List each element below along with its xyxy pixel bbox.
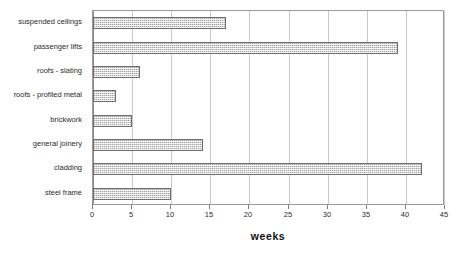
bar[interactable] [93,42,398,54]
bar-row [93,133,443,157]
x-tick-label: 5 [119,210,143,220]
category-label: steel frame [0,188,82,198]
category-label: passenger lifts [0,42,82,52]
bar-row [93,157,443,181]
x-tick-mark [131,205,132,209]
x-tick-mark [444,205,445,209]
plot-area [92,10,444,205]
x-tick-label: 40 [393,210,417,220]
x-tick-mark [288,205,289,209]
x-tick-label: 20 [236,210,260,220]
bar-chart: suspended ceilingspassenger liftsroofs -… [0,0,475,257]
x-tick-label: 0 [80,210,104,220]
x-tick-mark [327,205,328,209]
bar-row [93,60,443,84]
x-axis-title: weeks [92,230,444,242]
bar-row [93,109,443,133]
x-tick-label: 10 [158,210,182,220]
x-tick-mark [170,205,171,209]
x-tick-mark [248,205,249,209]
bar[interactable] [93,66,140,78]
bar[interactable] [93,139,203,151]
category-label: roofs - profiled metal [0,90,82,100]
gridline-45 [444,11,445,204]
category-label: suspended ceilings [0,17,82,27]
bar-row [93,182,443,206]
x-tick-label: 30 [315,210,339,220]
bar-row [93,35,443,59]
bar[interactable] [93,90,116,102]
x-tick-mark [366,205,367,209]
x-tick-label: 25 [276,210,300,220]
bars-layer [93,11,443,204]
category-label: roofs - slating [0,66,82,76]
category-label: general joinery [0,139,82,149]
bar[interactable] [93,115,132,127]
category-axis: suspended ceilingspassenger liftsroofs -… [0,10,88,205]
x-tick-mark [405,205,406,209]
bar[interactable] [93,17,226,29]
x-tick-mark [209,205,210,209]
x-tick-label: 45 [432,210,456,220]
category-label: brickwork [0,115,82,125]
bar[interactable] [93,163,422,175]
category-label: cladding [0,163,82,173]
bar-row [93,84,443,108]
x-tick-label: 35 [354,210,378,220]
x-tick-mark [92,205,93,209]
x-tick-label: 15 [197,210,221,220]
bar[interactable] [93,188,171,200]
bar-row [93,11,443,35]
